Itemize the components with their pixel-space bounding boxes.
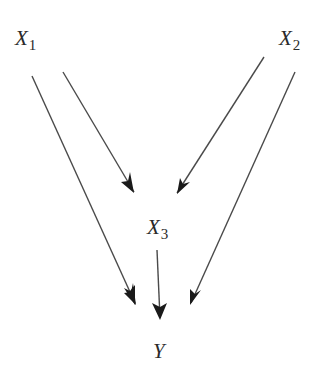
- node-x1-sub: 1: [29, 37, 37, 53]
- edge-x1-to-y: [32, 76, 135, 305]
- node-x3: X3: [147, 217, 168, 242]
- edge-x2-to-x3: [177, 57, 264, 193]
- node-x3-base: X: [147, 215, 160, 239]
- edges-layer: [0, 0, 315, 381]
- arrowhead-icon: [121, 172, 134, 193]
- node-y: Y: [153, 341, 165, 362]
- causal-diagram: X1 X2 X3 Y: [0, 0, 315, 381]
- arrowhead-icon: [177, 178, 190, 194]
- edge-x1-to-x3: [63, 72, 134, 192]
- node-y-base: Y: [153, 339, 165, 363]
- node-x2: X2: [279, 28, 300, 53]
- node-x2-base: X: [279, 26, 292, 50]
- edge-x2-to-y: [191, 72, 295, 303]
- node-x3-sub: 3: [161, 226, 169, 242]
- node-x1: X1: [15, 28, 36, 53]
- node-x1-base: X: [15, 26, 28, 50]
- node-x2-sub: 2: [293, 37, 301, 53]
